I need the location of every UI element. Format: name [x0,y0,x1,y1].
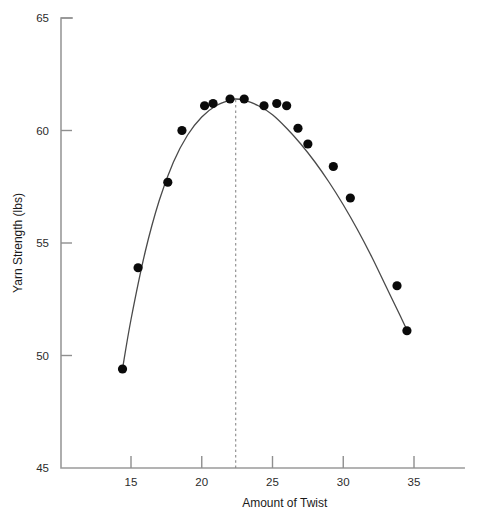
x-tick-label-20: 20 [195,476,208,488]
data-point [293,124,302,133]
data-point [133,263,142,272]
data-point [402,326,411,335]
y-tick-label-65: 65 [36,12,49,24]
data-point [208,99,217,108]
data-point [303,139,312,148]
data-point [118,364,127,373]
x-tick-label-35: 35 [408,476,421,488]
y-tick-label-50: 50 [36,350,49,362]
data-point [392,281,401,290]
y-tick-label-60: 60 [36,125,49,137]
x-axis-title: Amount of Twist [242,496,328,510]
data-point [177,126,186,135]
axis-spines [61,18,465,468]
x-tick-label-25: 25 [266,476,279,488]
scatter-plot-figure: 45505560651520253035Amount of TwistYarn … [0,0,499,513]
fitted-curve [123,99,409,369]
data-point [200,101,209,110]
data-point [346,193,355,202]
data-point [282,101,291,110]
data-point [259,101,268,110]
data-point [163,178,172,187]
fitted-curve-layer [123,99,409,369]
data-point [329,162,338,171]
axis-labels-layer: 45505560651520253035Amount of TwistYarn … [11,12,420,510]
y-tick-label-45: 45 [36,462,49,474]
plot-canvas: 45505560651520253035Amount of TwistYarn … [0,0,499,513]
data-point [272,99,281,108]
y-axis-title: Yarn Strength (lbs) [11,193,25,293]
data-points-layer [118,94,412,373]
data-point [240,94,249,103]
y-tick-label-55: 55 [36,237,49,249]
data-point [225,94,234,103]
x-tick-label-15: 15 [125,476,138,488]
x-tick-label-30: 30 [337,476,350,488]
axes-layer [61,18,465,468]
